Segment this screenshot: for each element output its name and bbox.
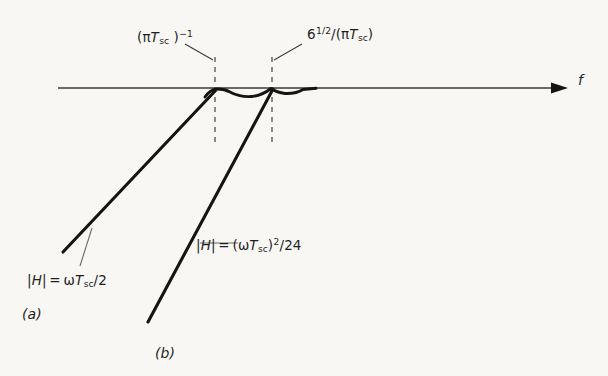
- equation-label-b: |H| = (ωTsc)2/24: [196, 236, 302, 254]
- leader-line-right-tick: [274, 44, 302, 60]
- tick-label-left-text: (πTsc )−1: [137, 29, 193, 45]
- equation-label-a-text: |H| = ωTsc/2: [27, 272, 107, 288]
- equation-label-a: |H| = ωTsc/2: [27, 272, 107, 289]
- panel-label-a: (a): [22, 306, 42, 322]
- panel-label-b: (b): [155, 345, 175, 361]
- equation-label-b-text: |H| = (ωTsc)2/24: [196, 237, 302, 253]
- tick-label-right: 61/2/(πTsc): [307, 25, 373, 43]
- tick-label-right-text: 61/2/(πTsc): [307, 26, 373, 42]
- figure-asymptotic-magnitude-response: (πTsc )−1 61/2/(πTsc) f |H| = ωTsc/2 |H|…: [0, 0, 608, 376]
- leader-line-left-tick: [185, 44, 213, 60]
- tick-label-left: (πTsc )−1: [137, 28, 193, 46]
- response-ripple-curve: [205, 88, 316, 97]
- asymptote-line-b: [148, 89, 273, 322]
- axis-label-f: f: [578, 72, 583, 88]
- figure-canvas: [0, 0, 608, 376]
- asymptote-line-a: [63, 90, 216, 252]
- frequency-axis-arrowhead: [551, 83, 568, 94]
